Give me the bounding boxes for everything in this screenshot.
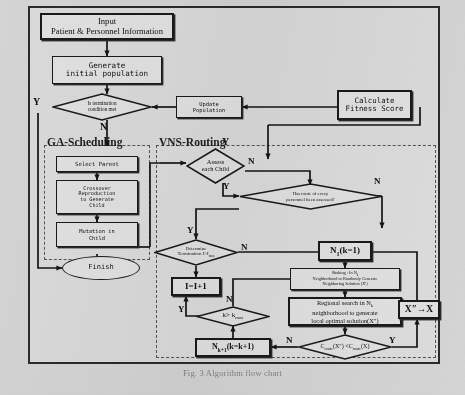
- node-assign-x: X″→X: [398, 300, 440, 319]
- node-k-greater-kmax: k> kmax: [196, 306, 270, 327]
- node-generate-population: Generate initial population: [52, 56, 162, 84]
- node-shaking-line3: Neighboring Solution (X'): [313, 282, 378, 287]
- node-input: Input Patient & Personnel Information: [40, 13, 174, 40]
- node-assess-line2: each Child: [202, 166, 230, 173]
- node-input-line2: Patient & Personnel Information: [51, 27, 163, 37]
- edge-label-cmp-yes: Y: [389, 336, 396, 345]
- node-generate-line2: initial population: [66, 70, 148, 79]
- node-mutation-line1: Mutation in: [79, 228, 115, 234]
- edge-label-det-no: N: [241, 243, 248, 252]
- edge-label-term-no: N: [100, 122, 107, 132]
- node-nkplus-line2: (k=k+1): [227, 342, 254, 351]
- node-iteration-increment: I=I+1: [171, 277, 221, 296]
- node-kmax-line1: k> k: [223, 311, 236, 319]
- node-crossover-line4: Child: [79, 203, 116, 209]
- node-mutation-in-child: Mutation in Child: [56, 222, 138, 247]
- node-regional-search: Regional search in Nk neighborhood to ge…: [288, 297, 402, 326]
- edge-label-assess-no: N: [248, 157, 255, 166]
- node-has-route-assessed: Has route of every personnel been assess…: [239, 183, 382, 210]
- node-kmax-sub: max: [235, 316, 243, 321]
- node-has-route-line1: Has route of every: [286, 191, 334, 196]
- node-mutation-line2: Child: [79, 235, 115, 241]
- node-calculate-line2: Fitness Score: [346, 105, 404, 113]
- node-compare-route-cost: Croute(X″) <Croute(X): [298, 334, 392, 360]
- node-terminate-line2: condition met: [88, 107, 117, 113]
- node-determine-termination: Determine Termination I>Imax: [154, 239, 238, 266]
- edge-label-det-yes: Y: [187, 226, 194, 235]
- node-nkplus-sub: k+1: [218, 346, 227, 352]
- edge-label-assess-yes: Y: [223, 182, 230, 191]
- node-shaking-neighborhood: Shaking : In Nk Neighborhood to Randomly…: [290, 268, 400, 290]
- edge-label-hasroute-no: N: [374, 177, 381, 186]
- edge-label-kmax-yes: Y: [178, 305, 185, 314]
- node-regional-line2: neighborhood to generate: [311, 309, 378, 316]
- figure-caption: Fig. 3 Algorithm flow chart: [0, 368, 465, 378]
- node-nk-plus-1: Nk+1(k=k+1): [195, 338, 271, 357]
- node-update-population: Update Population: [176, 96, 242, 118]
- node-regional-sub1: k: [371, 304, 373, 309]
- node-determine-line2: Termination I>I: [178, 251, 209, 256]
- node-crossover-reproduction: Crossover Reproduction to Generate Child: [56, 180, 138, 214]
- node-compare-leftsub: route: [325, 346, 333, 351]
- node-is-termination-condition-met: Is termination condition met: [52, 93, 152, 121]
- node-select-parent-line1: Select Parent: [75, 161, 119, 167]
- node-determine-sub: max: [209, 254, 215, 258]
- node-xassign-line1: X″→X: [405, 304, 433, 315]
- node-compare-right: (X): [361, 343, 369, 349]
- node-regional-line3: local optimal solution(X″): [311, 317, 378, 324]
- edge-label-vns-corner: Y: [222, 137, 229, 147]
- node-shaking-line1: Shaking : In N: [332, 270, 357, 275]
- node-finish-line1: Finish: [88, 264, 113, 272]
- node-regional-line1: Regional search in N: [317, 299, 371, 306]
- node-n1-k-equals-1: N1(k=1): [318, 241, 372, 261]
- node-select-parent: Select Parent: [56, 156, 138, 172]
- node-compare-mid: (X″) <C: [333, 343, 353, 349]
- node-update-line2: Population: [193, 107, 225, 113]
- edge-label-kmax-no: N: [226, 295, 233, 304]
- node-compare-midsub: route: [353, 346, 361, 351]
- edge-label-cmp-no: N: [286, 336, 293, 345]
- node-assess-each-child: Assess each Child: [186, 148, 245, 184]
- figure-canvas: GA-Scheduling VNS-Routing: [0, 0, 465, 395]
- node-n1-line2: (k=1): [339, 245, 360, 255]
- node-finish: Finish: [62, 256, 140, 280]
- node-calculate-fitness-score: Calculate Fitness Score: [337, 90, 412, 120]
- node-has-route-line2: personnel been assessed?: [286, 197, 334, 202]
- edge-label-term-yes: Y: [33, 97, 40, 107]
- node-iplus-line1: I=I+1: [185, 281, 207, 291]
